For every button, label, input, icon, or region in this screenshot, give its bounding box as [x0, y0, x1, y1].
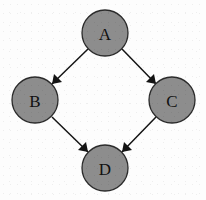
edge-group [52, 49, 156, 152]
graph-diagram: A B C D [0, 0, 206, 200]
graph-node-a-label: A [99, 25, 112, 44]
node-group: A B C D [12, 10, 195, 191]
graph-node-a[interactable]: A [82, 10, 128, 56]
graph-node-c[interactable]: C [149, 77, 195, 123]
graph-node-b-label: B [29, 92, 40, 111]
edge-b-to-d[interactable] [52, 117, 88, 152]
edge-c-to-d[interactable] [122, 117, 156, 152]
graph-node-d[interactable]: D [82, 145, 128, 191]
graph-node-b[interactable]: B [12, 77, 58, 123]
edge-a-to-b[interactable] [52, 49, 88, 84]
graph-figure-canvas: A B C D [0, 0, 206, 200]
graph-node-c-label: C [166, 92, 177, 111]
graph-node-d-label: D [99, 160, 111, 179]
edge-a-to-c[interactable] [122, 49, 156, 84]
